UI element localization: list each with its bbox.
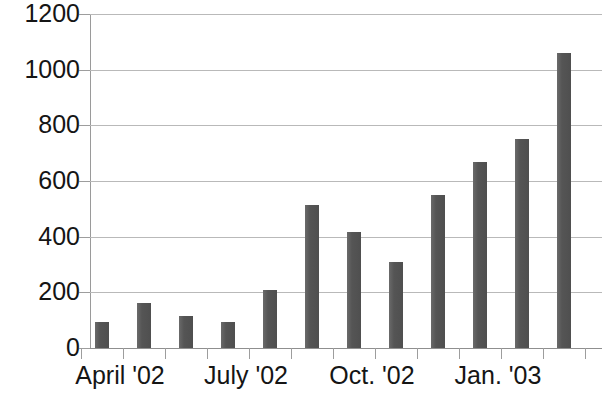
- x-axis-category-label: Jan. '03: [455, 360, 542, 390]
- x-axis-tick: [417, 348, 418, 359]
- y-axis-tick: [79, 181, 90, 182]
- x-axis-tick: [333, 348, 334, 359]
- y-axis-tick: [79, 292, 90, 293]
- bar: [389, 262, 403, 348]
- bar: [473, 162, 487, 348]
- y-axis-tick: [79, 125, 90, 126]
- x-axis-tick: [585, 348, 586, 359]
- y-axis-tick-label: 1200: [0, 1, 80, 26]
- x-axis-category-label: Oct. '02: [329, 360, 414, 390]
- y-axis-tick-label: 200: [0, 279, 80, 304]
- x-axis-tick: [207, 348, 208, 359]
- bar: [221, 322, 235, 348]
- y-axis-labels: 020040060080010001200: [0, 0, 80, 399]
- bar: [431, 195, 445, 348]
- bar: [179, 316, 193, 348]
- plot-area: [90, 14, 602, 348]
- gridline: [90, 70, 602, 71]
- x-axis-tick: [375, 348, 376, 359]
- gridline: [90, 14, 602, 15]
- y-axis-tick: [79, 14, 90, 15]
- x-axis-tick: [543, 348, 544, 359]
- x-axis-category-label: April '02: [75, 360, 165, 390]
- gridline: [90, 125, 602, 126]
- y-axis-tick-label: 400: [0, 224, 80, 249]
- y-axis-tick-label: 600: [0, 168, 80, 193]
- bar-chart: 020040060080010001200 April '02July '02O…: [0, 0, 602, 399]
- bar: [347, 232, 361, 348]
- x-axis-tick: [501, 348, 502, 359]
- y-axis-tick: [79, 70, 90, 71]
- y-axis-tick-label: 0: [0, 335, 80, 360]
- x-axis-tick: [81, 348, 82, 359]
- x-axis-tick: [291, 348, 292, 359]
- bar: [557, 53, 571, 348]
- y-axis-tick-label: 1000: [0, 57, 80, 82]
- bar: [263, 290, 277, 348]
- y-axis-tick-label: 800: [0, 112, 80, 137]
- bar: [137, 303, 151, 348]
- x-axis-tick: [123, 348, 124, 359]
- x-axis-tick: [249, 348, 250, 359]
- bar: [305, 205, 319, 348]
- bar: [515, 139, 529, 348]
- x-axis-ticks: [90, 348, 602, 360]
- x-axis-tick: [459, 348, 460, 359]
- x-axis-labels: April '02July '02Oct. '02Jan. '03: [0, 360, 602, 399]
- y-axis-tick: [79, 237, 90, 238]
- x-axis-category-label: July '02: [204, 360, 288, 390]
- bar: [95, 322, 109, 348]
- x-axis-tick: [165, 348, 166, 359]
